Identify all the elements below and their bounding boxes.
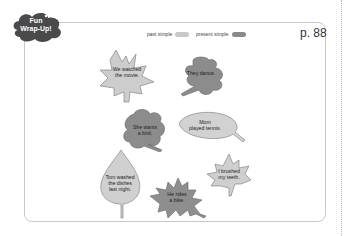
page-edge-divider [341, 0, 342, 236]
legend-present-label: present simple [196, 31, 229, 37]
badge-line-2: Wrap-Up! [10, 25, 62, 33]
leaf-i-brushed-my-teeth[interactable]: I brushed my teeth. [205, 152, 253, 198]
leaf-text-line-2: played tennis. [175, 125, 235, 131]
leaf-text-line-2: the movie. [96, 72, 158, 78]
past-swatch [175, 32, 189, 37]
leaf-text-line-2: a bird. [118, 130, 172, 136]
leaf-tom-washed-the-dishes[interactable]: Tom washed the dishes last night. [97, 148, 143, 220]
leaf-text-line-1: They dance. [175, 70, 227, 76]
oak-leaf-icon [175, 56, 227, 100]
leaf-mom-played-tennis[interactable]: Mom played tennis. [175, 108, 247, 144]
leaf-text-line-2: my teeth. [205, 174, 253, 180]
leaf-text-line-3: last night. [97, 186, 143, 192]
badge-line-1: Fun [10, 17, 62, 25]
leaf-they-dance[interactable]: They dance. [175, 56, 227, 100]
legend-present: present simple [196, 31, 246, 37]
leaf-we-watched-the-movie[interactable]: We watched the movie. [96, 48, 158, 103]
present-swatch [232, 32, 246, 37]
legend-past-label: past simple [147, 31, 172, 37]
leaf-he-rides-a-bike[interactable]: He rides a bike. [146, 176, 208, 220]
legend-past: past simple [147, 31, 189, 37]
fun-wrap-up-badge: + Fun Wrap-Up! [10, 10, 66, 44]
page-number: p. 88 [300, 26, 327, 40]
leaf-she-wants-a-bird[interactable]: She wants a bird. [118, 108, 172, 152]
leaf-text-line-2: a bike. [146, 197, 208, 203]
